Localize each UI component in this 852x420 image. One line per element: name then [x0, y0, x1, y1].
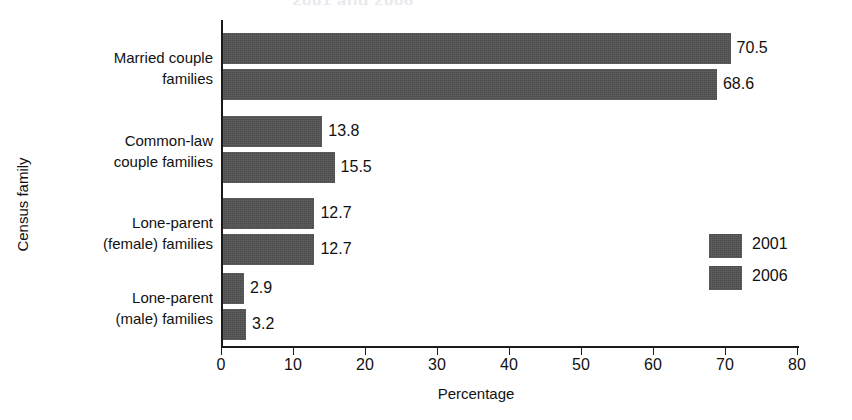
bar-value-label: 15.5 [341, 158, 372, 176]
category-label-line: Common-law [10, 130, 213, 151]
category-label-2: Lone-parent(female) families [10, 212, 213, 254]
legend-swatch-2006 [709, 266, 742, 290]
category-label-line: (male) families [10, 308, 213, 329]
x-tick-80 [797, 348, 798, 355]
category-label-line: couple families [10, 151, 213, 172]
x-tick-10 [293, 348, 294, 355]
category-label-line: Married couple [10, 47, 213, 68]
bar-2006-0 [223, 69, 717, 100]
bar-2001-3 [223, 273, 244, 304]
bar-2006-1 [223, 152, 335, 183]
x-tick-label-70: 70 [702, 356, 748, 374]
bar-2006-2 [223, 234, 314, 265]
x-tick-label-20: 20 [342, 356, 388, 374]
category-label-line: (female) families [10, 233, 213, 254]
x-tick-50 [581, 348, 582, 355]
x-tick-0 [221, 348, 222, 355]
x-tick-20 [365, 348, 366, 355]
category-label-line: Lone-parent [10, 212, 213, 233]
legend-swatch-2001 [709, 234, 742, 258]
bar-chart: 2001 and 2006 Census family 010203040506… [0, 0, 852, 420]
legend-label-2001: 2001 [752, 235, 788, 253]
bar-2001-0 [223, 33, 731, 64]
bar-2001-1 [223, 116, 322, 147]
x-tick-label-80: 80 [774, 356, 820, 374]
x-tick-label-30: 30 [414, 356, 460, 374]
bar-value-label: 13.8 [328, 122, 359, 140]
x-tick-label-50: 50 [558, 356, 604, 374]
category-label-line: families [10, 68, 213, 89]
x-tick-70 [725, 348, 726, 355]
x-tick-label-10: 10 [270, 356, 316, 374]
bar-value-label: 2.9 [250, 279, 272, 297]
legend-label-2006: 2006 [752, 267, 788, 285]
x-tick-40 [509, 348, 510, 355]
x-tick-30 [437, 348, 438, 355]
category-label-1: Common-lawcouple families [10, 130, 213, 172]
bar-value-label: 68.6 [723, 75, 754, 93]
bar-value-label: 3.2 [252, 315, 274, 333]
x-axis-title: Percentage [0, 385, 852, 402]
bar-value-label: 70.5 [737, 39, 768, 57]
bar-2001-2 [223, 198, 314, 229]
bar-2006-3 [223, 309, 246, 340]
x-tick-label-0: 0 [198, 356, 244, 374]
x-axis-line [221, 346, 799, 348]
bar-value-label: 12.7 [320, 240, 351, 258]
category-label-3: Lone-parent(male) families [10, 287, 213, 329]
category-label-0: Married couplefamilies [10, 47, 213, 89]
x-axis-title-text: Percentage [438, 385, 515, 402]
chart-title-remnant: 2001 and 2006 [292, 0, 522, 5]
category-label-line: Lone-parent [10, 287, 213, 308]
x-tick-label-60: 60 [630, 356, 676, 374]
x-tick-label-40: 40 [486, 356, 532, 374]
bar-value-label: 12.7 [320, 204, 351, 222]
x-tick-60 [653, 348, 654, 355]
